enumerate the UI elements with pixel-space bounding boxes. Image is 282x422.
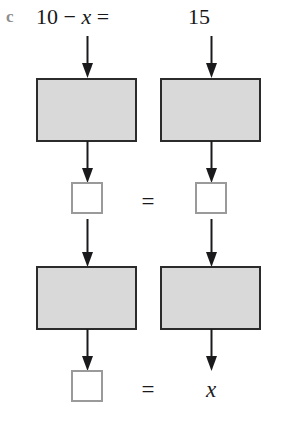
- operation-box-left-1[interactable]: [36, 78, 137, 142]
- operation-box-right-1[interactable]: [160, 78, 261, 142]
- arrow-down-icon: [205, 36, 218, 78]
- equation-left-side: 10 − x =: [36, 6, 109, 28]
- answer-box-left-2[interactable]: [71, 370, 103, 402]
- arrow-down-icon: [81, 141, 94, 183]
- equals-sign-bottom: =: [134, 378, 162, 401]
- arrow-down-icon: [205, 329, 218, 371]
- operation-box-left-2[interactable]: [36, 266, 137, 330]
- answer-box-right-1[interactable]: [195, 182, 227, 214]
- arrow-down-icon: [205, 141, 218, 183]
- arrow-down-icon: [205, 219, 218, 267]
- answer-box-left-1[interactable]: [71, 182, 103, 214]
- bottom-right-value: x: [197, 378, 225, 401]
- part-label-c: c: [6, 8, 14, 25]
- figure-canvas: c 10 − x = 15: [0, 0, 282, 422]
- operation-box-right-2[interactable]: [160, 266, 261, 330]
- equals-sign-middle: =: [134, 190, 162, 213]
- arrow-down-icon: [81, 36, 94, 78]
- arrow-down-icon: [81, 329, 94, 371]
- equation-right-side: 15: [188, 6, 210, 28]
- equation-lhs-text: 10 − x =: [36, 4, 109, 29]
- arrow-down-icon: [81, 219, 94, 267]
